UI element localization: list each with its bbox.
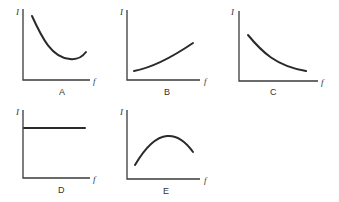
y-axis-label: I <box>15 7 20 17</box>
panel-label: E <box>163 186 169 196</box>
curve-e <box>135 136 193 165</box>
panel-label: A <box>59 87 65 97</box>
y-axis-label: I <box>15 107 20 117</box>
panel-label: B <box>164 87 170 97</box>
curve-c <box>248 35 306 71</box>
panel-a: I f A <box>15 7 97 97</box>
x-axis-label: f <box>204 175 208 185</box>
panel-d: I f D <box>15 107 97 195</box>
panel-c: I f C <box>230 7 325 97</box>
x-axis-label: f <box>204 76 208 86</box>
graphs-figure: I f A I f B I f C I f D I f E <box>0 0 339 202</box>
x-axis-label: f <box>93 76 97 86</box>
panel-e: I f E <box>119 107 208 196</box>
axes <box>127 110 200 179</box>
curve-b <box>134 43 193 71</box>
y-axis-label: I <box>119 107 124 117</box>
panel-label: D <box>58 185 65 195</box>
axes <box>23 110 90 178</box>
panel-b: I f B <box>119 7 208 97</box>
x-axis-label: f <box>321 77 325 87</box>
x-axis-label: f <box>93 174 97 184</box>
panel-label: C <box>270 87 277 97</box>
curve-a <box>32 16 86 59</box>
y-axis-label: I <box>230 7 235 17</box>
y-axis-label: I <box>119 7 124 17</box>
